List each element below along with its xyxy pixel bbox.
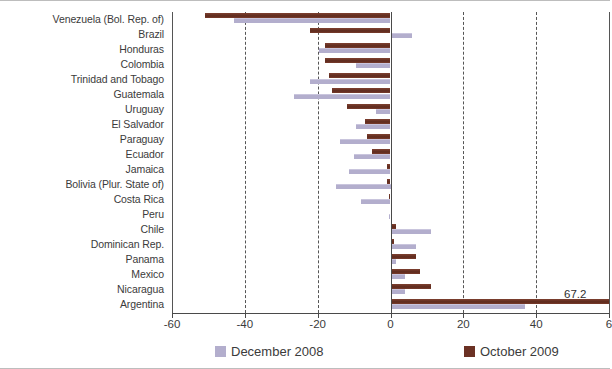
category-label: Honduras	[119, 44, 164, 55]
x-tick-label-60: 6	[606, 318, 612, 330]
bar-december-2008	[319, 48, 390, 53]
bar-december-2008	[391, 304, 526, 309]
x-tick-label--20: -20	[309, 318, 326, 330]
category-label: El Salvador	[111, 119, 164, 130]
bar-october-2009	[332, 88, 390, 93]
legend-item-october-2009: October 2009	[464, 344, 559, 359]
category-label: Ecuador	[126, 149, 164, 160]
gridline-20	[463, 12, 464, 313]
gridline--60	[172, 12, 173, 313]
category-label: Nicaragua	[117, 284, 164, 295]
gridline--20	[318, 12, 319, 313]
chart-legend: December 2008 October 2009	[0, 344, 610, 368]
category-label: Colombia	[120, 59, 164, 70]
bar-december-2008	[356, 63, 391, 68]
x-tick-label--60: -60	[164, 318, 181, 330]
bar-december-2008	[391, 274, 406, 279]
bar-october-2009	[310, 28, 390, 33]
x-tick-label-0: 0	[387, 318, 393, 330]
category-axis-labels: Venezuela (Bol. Rep. of)BrazilHondurasCo…	[0, 12, 168, 313]
bar-october-2009	[325, 58, 391, 63]
bar-december-2008	[391, 229, 431, 234]
bar-december-2008	[349, 169, 391, 174]
x-tick-label--40: -40	[237, 318, 254, 330]
category-label: Peru	[142, 209, 164, 220]
bar-october-2009	[372, 149, 390, 154]
category-label: Dominican Rep.	[91, 239, 164, 250]
gridline-60	[609, 12, 610, 313]
gridline-40	[536, 12, 537, 313]
bar-october-2009	[347, 104, 391, 109]
legend-swatch-december-2008-icon	[215, 346, 226, 357]
bar-october-2009	[391, 254, 416, 259]
legend-label-october-2009: October 2009	[480, 344, 559, 359]
bar-december-2008	[294, 94, 391, 99]
bar-october-2009	[205, 13, 391, 18]
bar-december-2008	[361, 199, 390, 204]
bar-december-2008	[376, 109, 391, 114]
bar-december-2008	[391, 244, 416, 249]
category-label: Mexico	[131, 269, 164, 280]
category-label: Chile	[141, 224, 164, 235]
category-label: Guatemala	[114, 89, 164, 100]
bar-october-2009	[391, 269, 420, 274]
category-label: Uruguay	[125, 104, 164, 115]
bar-october-2009	[325, 43, 391, 48]
plot-area	[172, 12, 609, 313]
legend-swatch-october-2009-icon	[464, 346, 475, 357]
bar-december-2008	[391, 289, 406, 294]
gridline--40	[245, 12, 246, 313]
category-label: Trinidad and Tobago	[71, 74, 164, 85]
category-label: Costa Rica	[114, 194, 164, 205]
bar-october-2009	[367, 134, 391, 139]
gridline-0	[391, 12, 392, 313]
bar-value-annotation: 67.2	[564, 288, 586, 300]
bar-december-2008	[354, 154, 390, 159]
legend-item-december-2008: December 2008	[215, 344, 324, 359]
x-tick-label-40: 40	[530, 318, 543, 330]
bar-october-2009	[365, 119, 390, 124]
bar-october-2009	[391, 284, 431, 289]
bar-october-2009	[329, 73, 391, 78]
category-label: Venezuela (Bol. Rep. of)	[53, 14, 164, 25]
x-tick-label-20: 20	[457, 318, 470, 330]
category-label: Paraguay	[120, 134, 164, 145]
category-label: Bolivia (Plur. State of)	[65, 179, 164, 190]
category-label: Panama	[125, 254, 164, 265]
top-border-rule	[0, 0, 610, 1]
bar-december-2008	[340, 139, 391, 144]
legend-label-december-2008: December 2008	[231, 344, 324, 359]
bar-december-2008	[356, 124, 391, 129]
category-label: Argentina	[120, 299, 164, 310]
bar-december-2008	[310, 79, 390, 84]
category-label: Jamaica	[126, 164, 164, 175]
bar-december-2008	[391, 33, 413, 38]
bar-december-2008	[234, 18, 391, 23]
category-label: Brazil	[138, 29, 164, 40]
bar-december-2008	[336, 184, 391, 189]
